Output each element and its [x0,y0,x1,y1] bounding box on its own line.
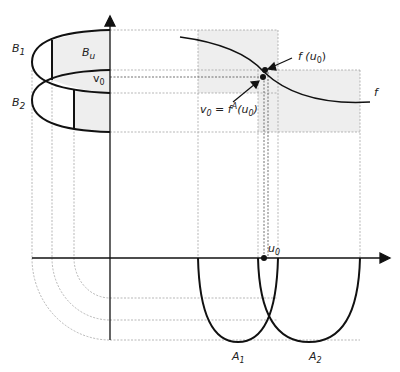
v0-point [260,74,266,80]
label-f: f [374,86,380,99]
a1-parabola [198,258,278,342]
vertical-axis-arrow-icon [105,16,115,26]
v0-u0-dashed-lines [110,72,268,258]
label-f-u0: f (u0) [298,50,326,65]
u0-point [261,255,267,261]
f-u0-point [262,67,268,73]
diagram-canvas: B1 B2 Bu v0 f (u0) v0 = fA(u0) f u0 A1 A… [0,0,400,372]
label-v0-equation: v0 = fA(u0) [200,102,258,118]
label-a1: A1 [231,350,245,365]
label-b1: B1 [12,42,25,57]
a-sets [198,258,360,342]
horizontal-axis-arrow-icon [380,253,390,263]
label-a2: A2 [308,350,322,365]
label-b2: B2 [12,96,26,111]
